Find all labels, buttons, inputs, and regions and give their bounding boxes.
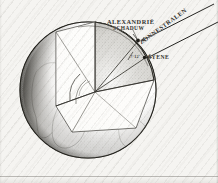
plate-border-left	[0, 0, 2, 183]
label-central-angle: 7°12'	[130, 54, 140, 59]
plate-shadow-bottom	[0, 177, 218, 183]
label-alexandria: ALEXANDRIË	[107, 18, 154, 25]
label-shadow: SCHADUW	[113, 25, 144, 31]
syene-marker	[143, 56, 146, 59]
illustration-plate: ALEXANDRIË SCHADUW SYENE 7°12' ZONNESTRA…	[0, 0, 218, 183]
label-syene: SYENE	[148, 54, 169, 60]
earth-circumference-diagram	[0, 0, 218, 183]
plate-border-right	[216, 0, 218, 183]
